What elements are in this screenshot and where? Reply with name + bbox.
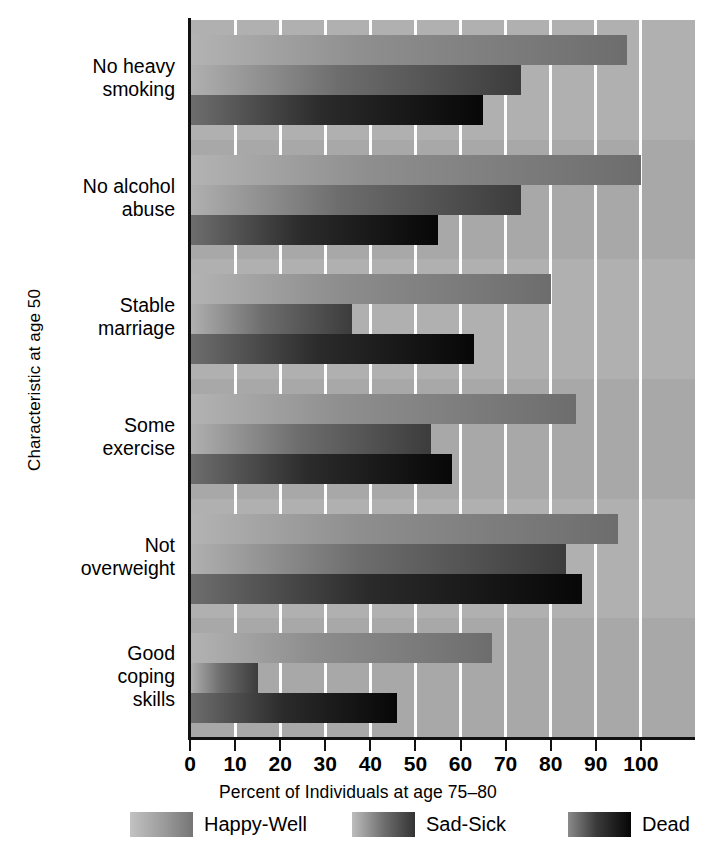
x-axis-tick — [234, 740, 236, 751]
bar-sad — [190, 185, 521, 215]
y-axis-line — [188, 18, 191, 740]
gridline — [594, 20, 597, 738]
bar-happy — [190, 35, 627, 65]
x-axis-tick — [414, 740, 416, 751]
x-axis-tick-label: 20 — [268, 752, 291, 776]
gridline — [279, 20, 282, 738]
x-axis-line — [188, 737, 695, 740]
bar-sad — [190, 663, 258, 693]
bar-dead — [190, 454, 452, 484]
x-axis-tick-label: 10 — [223, 752, 246, 776]
plot-area — [190, 20, 695, 738]
legend-swatch-dead — [568, 812, 631, 837]
category-label: Some exercise — [102, 414, 175, 460]
bar-happy — [190, 155, 641, 185]
gridline — [639, 20, 642, 738]
x-axis-tick-label: 80 — [539, 752, 562, 776]
category-label: No alcohol abuse — [83, 175, 175, 221]
x-axis-tick-label: 30 — [314, 752, 337, 776]
x-axis-tick — [460, 740, 462, 751]
x-axis-tick-label: 0 — [184, 752, 196, 776]
bar-sad — [190, 304, 352, 334]
bar-dead — [190, 215, 438, 245]
gridline — [234, 20, 237, 738]
x-axis-tick-label: 50 — [404, 752, 427, 776]
legend-label: Happy-Well — [204, 813, 307, 836]
y-axis-title: Characteristic at age 50 — [25, 170, 45, 590]
bar-happy — [190, 394, 576, 424]
bar-sad — [190, 65, 521, 95]
bar-dead — [190, 574, 582, 604]
legend-label: Dead — [642, 813, 690, 836]
x-axis-tick — [189, 740, 191, 751]
x-axis-tick — [640, 740, 642, 751]
gridline — [549, 20, 552, 738]
gridline — [324, 20, 327, 738]
bar-chart-figure: Characteristic at age 50 010203040506070… — [0, 0, 716, 867]
x-axis-tick-label: 60 — [449, 752, 472, 776]
x-axis-tick — [324, 740, 326, 751]
gridline — [504, 20, 507, 738]
gridline — [369, 20, 372, 738]
x-axis-tick — [369, 740, 371, 751]
bar-sad — [190, 424, 431, 454]
legend-item-dead: Dead — [568, 812, 690, 837]
gridline — [414, 20, 417, 738]
category-label: Stable marriage — [98, 294, 175, 340]
category-label: No heavy smoking — [93, 55, 175, 101]
legend-swatch-sad — [352, 812, 415, 837]
chart-legend: Happy-WellSad-SickDead — [0, 812, 716, 852]
x-axis-tick-label: 90 — [584, 752, 607, 776]
x-axis-tick — [279, 740, 281, 751]
x-axis-title: Percent of Individuals at age 75–80 — [0, 782, 716, 803]
category-label: Not overweight — [81, 534, 175, 580]
x-axis-tick — [550, 740, 552, 751]
category-label: Good coping skills — [118, 642, 175, 711]
bar-happy — [190, 514, 618, 544]
x-axis-tick-label: 100 — [623, 752, 658, 776]
bar-sad — [190, 544, 566, 574]
bar-dead — [190, 95, 483, 125]
x-axis-tick — [595, 740, 597, 751]
legend-item-happy: Happy-Well — [130, 812, 307, 837]
bar-dead — [190, 334, 474, 364]
x-axis-tick-label: 70 — [494, 752, 517, 776]
bar-happy — [190, 633, 492, 663]
legend-label: Sad-Sick — [426, 813, 506, 836]
x-axis-tick — [505, 740, 507, 751]
bar-happy — [190, 274, 551, 304]
x-axis-tick-label: 40 — [359, 752, 382, 776]
gridline — [459, 20, 462, 738]
bar-dead — [190, 693, 397, 723]
legend-item-sad: Sad-Sick — [352, 812, 506, 837]
legend-swatch-happy — [130, 812, 193, 837]
